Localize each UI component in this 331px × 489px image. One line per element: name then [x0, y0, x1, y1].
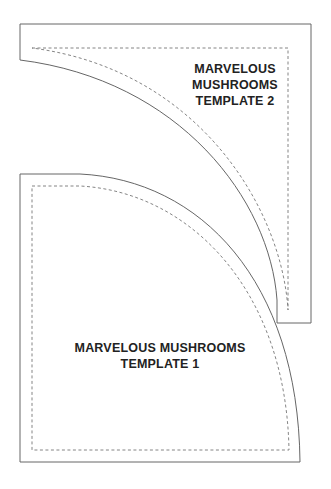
template-2-line2: MUSHROOMS: [180, 77, 290, 93]
template-1-line1: MARVELOUS MUSHROOMS: [60, 340, 260, 356]
template-2-line3: TEMPLATE 2: [180, 93, 290, 109]
template-2-line1: MARVELOUS: [180, 61, 290, 77]
template-1-seam: [32, 186, 289, 450]
template-1-label: MARVELOUS MUSHROOMS TEMPLATE 1: [60, 340, 260, 372]
template-1-line2: TEMPLATE 1: [60, 356, 260, 372]
template-2-label: MARVELOUS MUSHROOMS TEMPLATE 2: [180, 61, 290, 109]
template-1-outline: [20, 174, 300, 462]
